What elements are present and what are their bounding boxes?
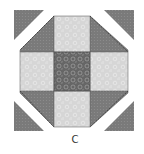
patch-center (54, 52, 90, 91)
patch-top-middle (54, 16, 90, 52)
quilt-block-diagram (0, 0, 144, 154)
figure-caption: C (0, 134, 144, 145)
patch-bottom-middle (54, 91, 90, 127)
patch-middle-left (20, 52, 54, 91)
patch-middle-right (90, 52, 128, 91)
